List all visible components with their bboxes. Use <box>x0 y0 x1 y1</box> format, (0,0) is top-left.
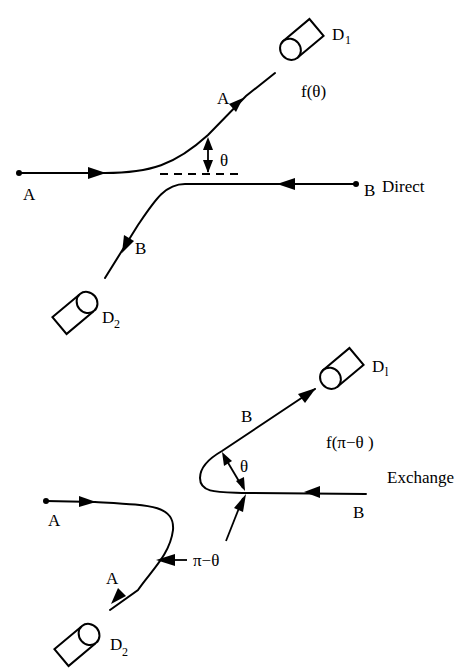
trajectory-a-direct <box>19 73 275 173</box>
label-a-out-exchange: A <box>106 569 119 588</box>
arrow-b-out-exchange <box>298 388 316 403</box>
label-a-start: A <box>23 185 36 204</box>
label-d1-exchange: D <box>372 357 384 376</box>
label-pi-minus-theta: π−θ <box>193 551 219 570</box>
label-b-out-exchange: B <box>241 407 252 426</box>
label-d1: D <box>332 25 344 44</box>
theta-arrow-exchange-up <box>222 452 232 466</box>
label-a-out: A <box>217 89 230 108</box>
label-d2-sub: 2 <box>114 317 120 331</box>
label-d2: D <box>102 308 114 327</box>
trajectory-a-exchange <box>46 501 173 610</box>
detector-d1-direct <box>276 19 324 64</box>
label-direct: Direct <box>382 177 425 196</box>
arrow-b-outgoing <box>122 235 134 253</box>
label-d2-sub-exchange: 2 <box>122 645 128 659</box>
detector-d1-exchange <box>316 348 364 393</box>
arrow-b-in-exchange <box>304 486 320 498</box>
label-theta-exchange: θ <box>240 457 248 476</box>
scattering-diagram: A A θ B Direct B f(θ) D 1 D 2 <box>0 0 469 672</box>
arrow-a-out-exchange <box>111 588 126 604</box>
label-theta: θ <box>220 151 228 170</box>
label-d1-sub-exchange: l <box>385 365 389 379</box>
label-amplitude-exchange: f(π−θ ) <box>326 433 374 452</box>
label-a-start-exchange: A <box>48 511 61 530</box>
label-d2-exchange: D <box>110 635 122 654</box>
trajectory-b-direct <box>105 184 356 278</box>
detector-d2-exchange <box>54 620 103 666</box>
arrow-a-in-exchange <box>79 496 96 507</box>
label-b-out: B <box>135 239 146 258</box>
label-b-start-exchange: B <box>353 503 364 522</box>
theta-arrow-down <box>203 160 213 173</box>
label-exchange: Exchange <box>387 468 454 487</box>
label-b-start: B <box>364 181 375 200</box>
label-d1-sub: 1 <box>345 33 351 47</box>
pi-theta-arrowhead-1 <box>234 494 246 512</box>
arrow-b-incoming <box>277 178 295 190</box>
direct-process: A A θ B Direct B f(θ) D 1 D 2 <box>16 19 425 334</box>
detector-d2-direct <box>52 288 101 334</box>
label-amplitude-direct: f(θ) <box>301 82 326 101</box>
exchange-process: A A B B θ π−θ f(π−θ ) Exchange D l D 2 <box>43 348 454 666</box>
arrow-a-incoming <box>88 167 106 179</box>
